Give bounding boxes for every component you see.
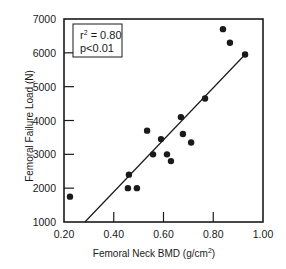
data-point — [202, 95, 208, 101]
y-tick-label: 1000 — [33, 216, 57, 228]
data-point — [150, 151, 156, 157]
data-point — [227, 39, 233, 45]
x-axis-title-suffix: ) — [212, 248, 215, 259]
x-axis-tick-labels: 0.200.400.600.801.00 — [54, 228, 274, 240]
y-tick-label: 2000 — [33, 182, 57, 194]
data-point — [164, 151, 170, 157]
data-point — [242, 51, 248, 57]
y-tick-label: 4000 — [33, 115, 57, 127]
x-axis-ticks — [114, 212, 214, 222]
data-point — [125, 185, 131, 191]
data-point — [180, 131, 186, 137]
data-point — [134, 185, 140, 191]
data-point — [168, 158, 174, 164]
data-point — [158, 136, 164, 142]
x-axis-title-text: Femoral Neck BMD (g/cm — [93, 248, 208, 259]
scatter-chart: 1000200030004000500060007000 0.200.400.6… — [0, 0, 286, 269]
y-tick-label: 3000 — [33, 148, 57, 160]
r-squared-value: = 0.80 — [88, 29, 122, 41]
y-tick-label: 5000 — [33, 81, 57, 93]
stats-annotation-box: r2 = 0.80 p<0.01 — [73, 24, 122, 57]
x-tick-label: 0.20 — [54, 228, 75, 240]
y-axis-title: Femoral Failure Load (N) — [24, 70, 35, 182]
x-tick-label: 1.00 — [253, 228, 274, 240]
data-point — [144, 127, 150, 133]
x-tick-label: 0.60 — [153, 228, 174, 240]
data-point — [126, 171, 132, 177]
y-axis-tick-labels: 1000200030004000500060007000 — [33, 13, 57, 228]
regression-line — [85, 55, 245, 222]
data-point — [220, 26, 226, 32]
x-axis-title: Femoral Neck BMD (g/cm2) — [93, 247, 215, 259]
data-point — [67, 193, 73, 199]
y-tick-label: 6000 — [33, 47, 57, 59]
data-point — [188, 139, 194, 145]
x-tick-label: 0.80 — [203, 228, 224, 240]
data-point — [178, 114, 184, 120]
y-tick-label: 7000 — [33, 13, 57, 25]
y-axis-ticks — [64, 53, 74, 188]
p-value-label: p<0.01 — [80, 42, 114, 54]
x-tick-label: 0.40 — [104, 228, 125, 240]
